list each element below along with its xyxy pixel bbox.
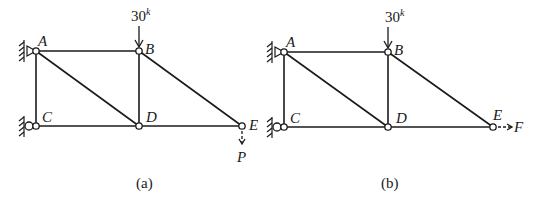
joint-label-a: A [37, 33, 48, 49]
figure-a: 30k P A B C D E (a) [19, 6, 258, 192]
joint-e [490, 124, 496, 130]
joint-label-c: C [290, 110, 301, 126]
joint-label-d: D [145, 109, 157, 125]
joint-label-b: B [145, 41, 154, 57]
joint-label-a: A [285, 34, 296, 50]
dashed-load-arrow-icon [239, 131, 245, 144]
roller-support-icon [19, 116, 33, 137]
load-label-f: F [513, 119, 524, 135]
joint-b [136, 48, 142, 54]
joint-label-e: E [492, 107, 502, 123]
joint-e [239, 123, 245, 129]
load-arrow-icon [135, 26, 143, 47]
roller-support-icon [267, 117, 281, 138]
figure-b: 30k F A B C D E (b) [267, 7, 524, 192]
joint-c [281, 124, 287, 130]
joint-d [385, 124, 391, 130]
joint-label-e: E [248, 117, 258, 133]
joint-label-b: B [394, 42, 403, 58]
joint-d [136, 123, 142, 129]
joint-c [33, 123, 39, 129]
figure-caption-a: (a) [136, 175, 153, 192]
truss-diagram: 30k P A B C D E (a) [0, 0, 554, 203]
load-arrow-icon [384, 27, 392, 48]
load-value: 30k [131, 6, 151, 24]
load-label-p: P [236, 149, 246, 165]
joint-label-d: D [395, 110, 407, 126]
joint-b [385, 49, 391, 55]
load-value: 30k [385, 7, 405, 25]
dashed-load-arrow-icon [498, 124, 512, 130]
joint-label-c: C [42, 109, 53, 125]
figure-caption-b: (b) [381, 175, 399, 192]
